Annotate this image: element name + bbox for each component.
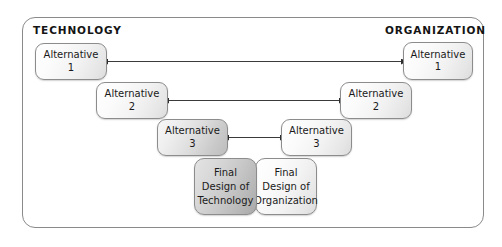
node-label-line1: Alternative <box>349 88 404 101</box>
node-label-line2: 2 <box>373 101 379 114</box>
node-label-line1: Alternative <box>411 49 466 62</box>
node-label-line2: Design of <box>202 180 249 194</box>
node-label-line1: Alternative <box>289 125 344 138</box>
node-organization-alternative-1: Alternative 1 <box>403 42 473 80</box>
node-label-line2: Design of <box>262 180 309 194</box>
node-label-line1: Alternative <box>44 49 99 62</box>
node-label-line2: 3 <box>189 138 195 151</box>
node-organization-alternative-2: Alternative 2 <box>340 82 412 119</box>
node-technology-alternative-1: Alternative 1 <box>35 43 107 80</box>
node-label-line2: 1 <box>435 61 441 74</box>
node-organization-alternative-3: Alternative 3 <box>281 119 352 156</box>
node-label-line3: Technology <box>197 194 253 208</box>
node-label-line1: Alternative <box>165 125 220 138</box>
heading-organization: ORGANIZATION <box>385 24 486 36</box>
node-label-line1: Alternative <box>105 88 160 101</box>
node-technology-alternative-2: Alternative 2 <box>96 82 168 119</box>
node-label-line2: 3 <box>313 138 319 151</box>
node-technology-alternative-3: Alternative 3 <box>157 119 228 156</box>
node-label-line3: Organization <box>254 194 318 208</box>
node-final-design-of-organization: Final Design of Organization <box>255 158 317 215</box>
heading-technology: TECHNOLOGY <box>33 24 122 36</box>
node-label-line2: 2 <box>129 101 135 114</box>
node-label-line2: 1 <box>68 62 74 75</box>
diagram-canvas: TECHNOLOGY ORGANIZATION Alternative 1 Al… <box>0 0 502 247</box>
node-final-design-of-technology: Final Design of Technology <box>194 158 257 215</box>
node-label-line1: Final <box>274 166 297 180</box>
node-label-line1: Final <box>214 166 237 180</box>
